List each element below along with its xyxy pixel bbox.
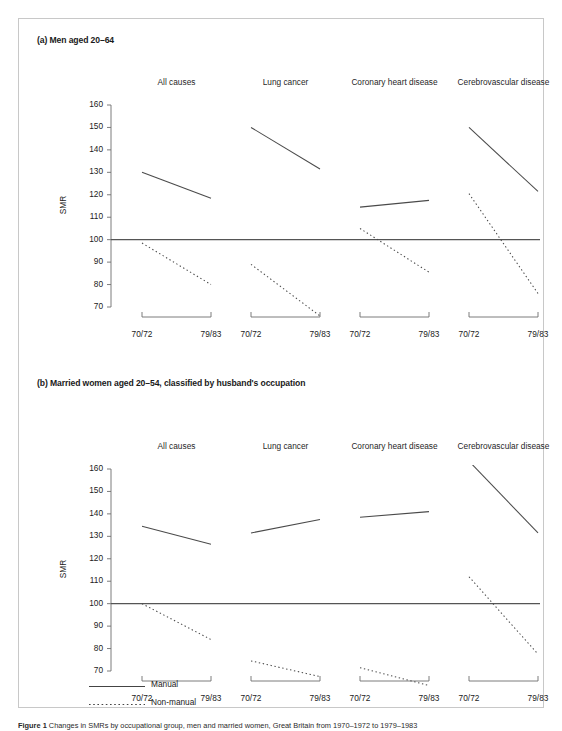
series-line-non-manual xyxy=(142,604,211,640)
figure-caption-text: Changes in SMRs by occupational group, m… xyxy=(47,721,418,730)
panel-a-plot-area: 708090100110120130140150160All causes70/… xyxy=(19,59,543,349)
series-line-non-manual xyxy=(251,264,320,316)
panel-group-a: (a) Men aged 20–64 708090100110120130140… xyxy=(19,19,543,363)
series-line-manual xyxy=(142,172,211,198)
panel-b-lines xyxy=(19,401,543,711)
x-axis-bracket xyxy=(469,676,538,681)
legend-swatch-manual xyxy=(89,685,145,686)
series-line-manual xyxy=(360,200,429,207)
series-line-non-manual xyxy=(469,194,538,294)
series-line-non-manual xyxy=(360,228,429,272)
panel-b-title: (b) Married women aged 20–54, classified… xyxy=(37,378,305,388)
legend-label-manual: Manual xyxy=(151,679,178,689)
legend-swatch-non-manual xyxy=(89,703,145,704)
x-axis-bracket xyxy=(251,312,320,317)
x-axis-bracket xyxy=(251,676,320,681)
figure-caption: Figure 1 Changes in SMRs by occupational… xyxy=(18,721,546,731)
panel-group-b: (b) Married women aged 20–54, classified… xyxy=(19,363,543,708)
series-line-manual xyxy=(360,512,429,518)
x-axis-bracket xyxy=(469,312,538,317)
x-axis-bracket xyxy=(142,312,211,317)
figure-frame: (a) Men aged 20–64 708090100110120130140… xyxy=(18,18,544,708)
figure-caption-label: Figure 1 xyxy=(18,721,47,730)
series-line-non-manual xyxy=(360,668,429,686)
legend-label-non-manual: Non-manual xyxy=(151,697,196,707)
y-axis-label: SMR xyxy=(58,175,68,235)
series-line-manual xyxy=(142,526,211,544)
x-axis-bracket xyxy=(360,676,429,681)
y-axis-label: SMR xyxy=(58,539,68,599)
series-line-non-manual xyxy=(142,243,211,285)
series-line-manual xyxy=(251,127,320,169)
series-line-non-manual xyxy=(469,577,538,654)
series-line-manual xyxy=(251,520,320,533)
series-line-manual xyxy=(469,127,538,191)
panel-a-title: (a) Men aged 20–64 xyxy=(37,35,114,45)
x-axis-bracket xyxy=(360,312,429,317)
panel-a-lines xyxy=(19,59,543,369)
series-line-manual xyxy=(469,461,538,533)
panel-b-plot-area: 708090100110120130140150160All causes70/… xyxy=(19,401,543,701)
series-line-non-manual xyxy=(251,661,320,677)
